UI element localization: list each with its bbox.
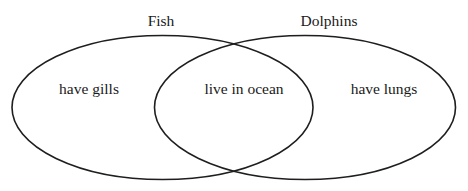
intersection-label: live in ocean: [204, 80, 283, 97]
venn-diagram: Fish Dolphins have gills live in ocean h…: [0, 0, 468, 191]
fish-set-title: Fish: [148, 12, 175, 29]
fish-set-ellipse: [12, 36, 313, 180]
fish-only-label: have gills: [59, 80, 119, 97]
dolphins-only-label: have lungs: [351, 80, 418, 97]
dolphins-set-title: Dolphins: [301, 12, 358, 29]
dolphins-set-ellipse: [155, 36, 456, 180]
